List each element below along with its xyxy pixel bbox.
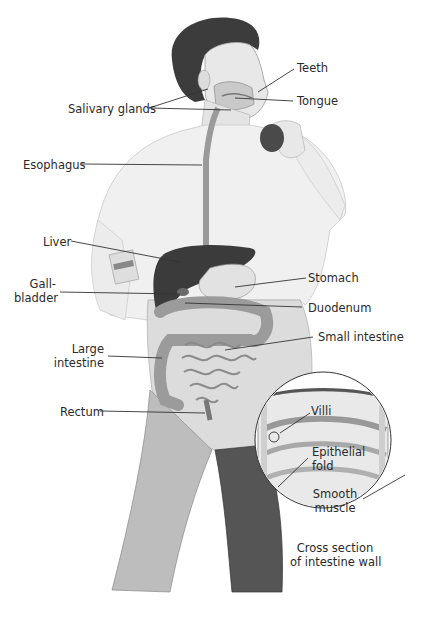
- inset-caption-line1: Cross section: [290, 541, 380, 555]
- label-teeth: Teeth: [297, 61, 328, 75]
- label-smooth-muscle: Smooth muscle: [310, 487, 360, 515]
- label-tongue: Tongue: [297, 94, 338, 108]
- label-epithelial-fold-line1: Epithelial: [312, 445, 365, 459]
- label-large-intestine: Large intestine: [50, 342, 104, 370]
- apple: [260, 124, 284, 152]
- label-salivary-glands: Salivary glands: [68, 102, 156, 116]
- label-duodenum: Duodenum: [308, 301, 371, 315]
- head: [172, 18, 268, 118]
- digestive-system-diagram: Teeth Tongue Salivary glands Esophagus L…: [0, 0, 434, 630]
- illustration: [0, 0, 434, 630]
- label-villi: Villi: [311, 404, 331, 418]
- label-smooth-muscle-line2: muscle: [310, 501, 360, 515]
- inset-caption-line2: of intestine wall: [290, 555, 380, 569]
- label-smooth-muscle-line1: Smooth: [310, 487, 360, 501]
- label-large-intestine-line2: intestine: [50, 356, 104, 370]
- label-epithelial-fold-line2: fold: [312, 459, 365, 473]
- label-liver: Liver: [43, 235, 71, 249]
- label-small-intestine: Small intestine: [318, 330, 404, 344]
- gallbladder: [177, 288, 189, 296]
- label-esophagus: Esophagus: [23, 158, 86, 172]
- label-rectum: Rectum: [60, 405, 104, 419]
- label-gallbladder-line1: Gall-: [14, 277, 56, 291]
- label-large-intestine-line1: Large: [50, 342, 104, 356]
- inset-caption: Cross section of intestine wall: [290, 541, 380, 569]
- label-epithelial-fold: Epithelial fold: [312, 445, 365, 473]
- label-gallbladder: Gall- bladder: [14, 277, 56, 305]
- label-gallbladder-line2: bladder: [14, 291, 56, 305]
- label-stomach: Stomach: [308, 271, 359, 285]
